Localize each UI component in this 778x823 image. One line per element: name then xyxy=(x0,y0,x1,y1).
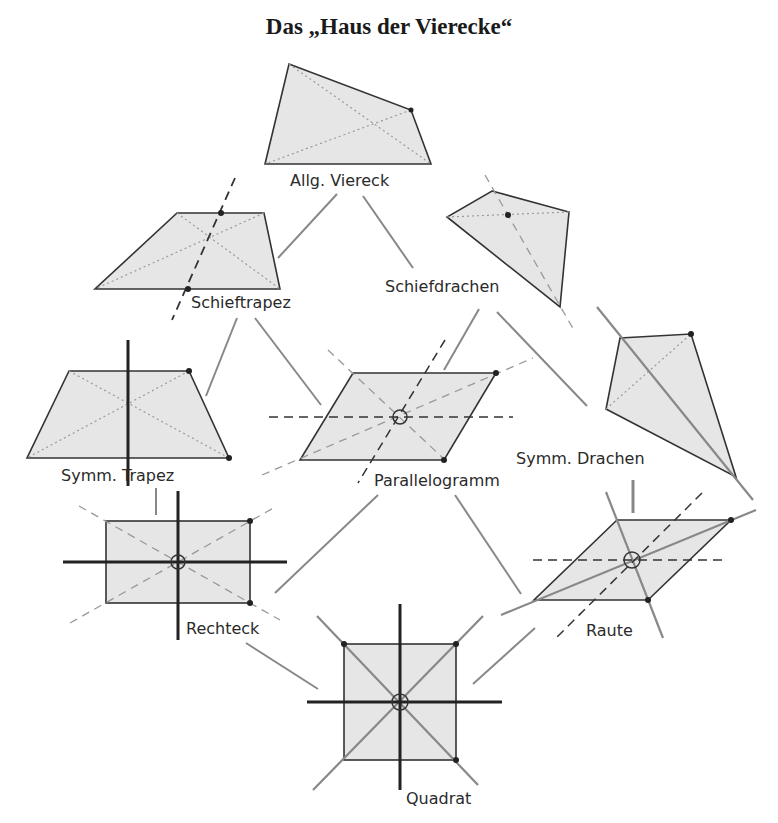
arrow-parallelogramm-rechteck xyxy=(275,495,378,593)
label-allg-viereck: Allg. Viereck xyxy=(290,171,390,190)
quadrilateral-hierarchy-diagram: Allg. Viereck Schieftrapez Schiefdrachen… xyxy=(0,0,778,823)
arrow-schiefdrachen-symmdrachen xyxy=(497,312,587,406)
shape-parallelogramm: Parallelogramm xyxy=(262,340,533,490)
shape-schieftrapez: Schieftrapez xyxy=(95,178,291,320)
label-schiefdrachen: Schiefdrachen xyxy=(385,277,499,296)
arrow-rechteck-quadrat xyxy=(246,643,318,689)
shape-quadrat: Quadrat xyxy=(307,604,502,808)
label-symm-trapez: Symm. Trapez xyxy=(61,466,174,485)
arrow-viereck-schiefdrachen xyxy=(363,196,413,268)
shape-rechteck: Rechteck xyxy=(63,491,287,640)
label-parallelogramm: Parallelogramm xyxy=(374,471,500,490)
arrow-raute-quadrat xyxy=(473,628,535,684)
arrow-viereck-schieftrapez xyxy=(278,194,337,258)
arrow-schieftrapez-symmtrapez xyxy=(206,318,237,396)
shape-schiefdrachen: Schiefdrachen xyxy=(385,175,575,332)
label-quadrat: Quadrat xyxy=(406,789,471,808)
arrow-schiefdrachen-parallelogramm xyxy=(444,309,479,370)
shape-symm-drachen: Symm. Drachen xyxy=(516,307,753,500)
shape-symm-trapez: Symm. Trapez xyxy=(27,340,232,486)
label-schieftrapez: Schieftrapez xyxy=(191,293,291,312)
shape-allg-viereck: Allg. Viereck xyxy=(265,64,431,190)
arrow-schieftrapez-parallelogramm xyxy=(255,318,321,405)
label-symm-drachen: Symm. Drachen xyxy=(516,449,645,468)
shape-raute: Raute xyxy=(501,492,756,640)
arrow-parallelogramm-raute xyxy=(455,495,521,594)
label-rechteck: Rechteck xyxy=(186,619,260,638)
label-raute: Raute xyxy=(586,621,633,640)
